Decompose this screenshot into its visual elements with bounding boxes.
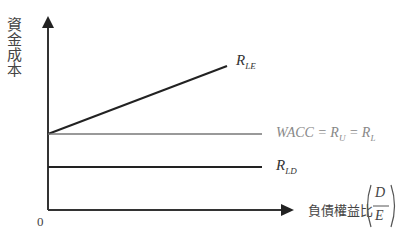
origin-label: 0 bbox=[37, 214, 44, 230]
wacc-label: WACC = RU = RL bbox=[276, 125, 375, 143]
rle-label: RLE bbox=[236, 52, 256, 71]
rle-line bbox=[48, 66, 227, 134]
fraction-denominator: E bbox=[375, 208, 384, 224]
fraction-numerator: D bbox=[375, 185, 385, 201]
x-axis-arrow-icon bbox=[281, 204, 294, 216]
x-axis-fraction: D E bbox=[364, 181, 398, 231]
y-axis-arrow-icon bbox=[42, 16, 54, 28]
rld-label: RLD bbox=[276, 157, 297, 176]
y-axis-label: 資金成本 bbox=[3, 17, 21, 77]
